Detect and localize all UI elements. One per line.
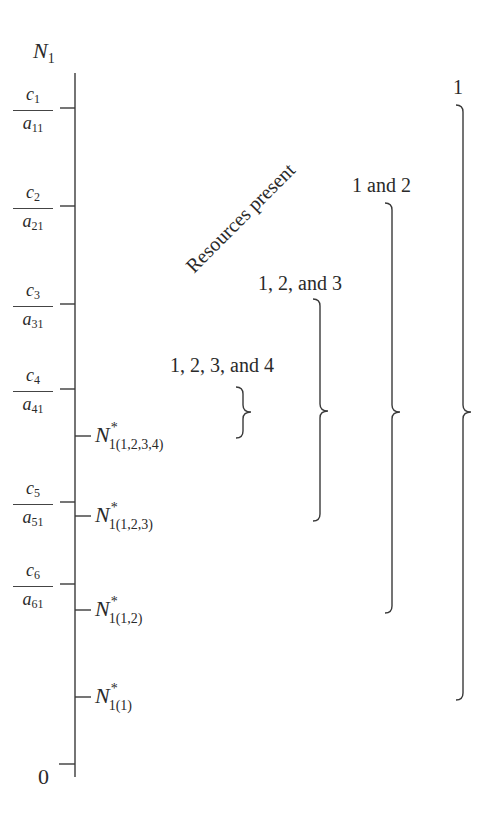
- denominator: a11: [23, 113, 44, 133]
- diagram-lines: [0, 0, 488, 818]
- denominator: a51: [23, 507, 44, 527]
- numerator: c1: [26, 84, 40, 104]
- threshold-fraction-label: c5a51: [13, 478, 53, 530]
- denominator: a21: [23, 211, 44, 231]
- equilibrium-label: N*1(1,2): [95, 598, 143, 620]
- numerator: c2: [26, 182, 40, 202]
- denominator: a41: [23, 394, 44, 414]
- numerator: c6: [26, 560, 40, 580]
- resource-competition-diagram: N1 0 Resources present c1a11c2a21c3a31c4…: [0, 0, 488, 818]
- resource-group-label: 1, 2, 3, and 4: [170, 355, 274, 375]
- right-curly-brace-icon: [456, 105, 471, 700]
- resource-group-label: 1 and 2: [352, 175, 411, 195]
- axis-zero-label: 0: [38, 766, 49, 788]
- threshold-fraction-label: c3a31: [13, 280, 53, 332]
- denominator: a61: [23, 589, 44, 609]
- threshold-fraction-label: c1a11: [13, 84, 53, 136]
- equilibrium-label: N*1(1,2,3): [95, 504, 153, 526]
- axis-title: N1: [33, 40, 55, 62]
- right-curly-brace-icon: [236, 387, 251, 438]
- numerator: c5: [26, 478, 40, 498]
- equilibrium-label: N*1(1,2,3,4): [95, 424, 164, 446]
- numerator: c3: [26, 280, 40, 300]
- resource-group-label: 1, 2, and 3: [258, 273, 342, 293]
- equilibrium-label: N*1(1): [95, 685, 132, 707]
- threshold-fraction-label: c6a61: [13, 560, 53, 612]
- numerator: c4: [26, 365, 40, 385]
- denominator: a31: [23, 309, 44, 329]
- resource-group-label: 1: [453, 77, 463, 97]
- threshold-fraction-label: c4a41: [13, 365, 53, 417]
- threshold-fraction-label: c2a21: [13, 182, 53, 234]
- right-curly-brace-icon: [313, 299, 328, 521]
- right-curly-brace-icon: [385, 203, 400, 613]
